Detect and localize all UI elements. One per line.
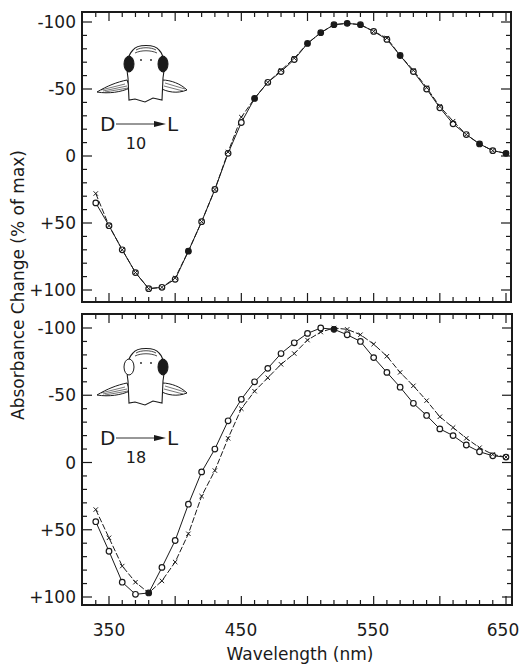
y-tick-label: -50 <box>48 385 76 405</box>
y-tick-label: +100 <box>29 280 76 300</box>
data-point-cross <box>186 532 190 536</box>
x-axis-title: Wavelength (nm) <box>227 644 374 664</box>
fish-body <box>127 349 164 406</box>
data-point-cross <box>252 389 256 393</box>
data-point-circle <box>186 501 192 507</box>
nostril <box>150 362 152 364</box>
data-point-cross <box>371 342 375 346</box>
x-tick-label: 350 <box>93 620 125 640</box>
data-point-cross <box>292 351 296 355</box>
data-point-circle <box>450 433 456 439</box>
data-point-circle <box>239 396 245 402</box>
data-point-circle <box>225 418 231 424</box>
data-point-circle <box>371 355 377 361</box>
y-tick-label: +100 <box>29 587 76 607</box>
data-point-circle <box>212 446 218 452</box>
annotation-from: D <box>100 426 115 450</box>
data-point-circle <box>450 121 456 127</box>
data-point-circle <box>159 565 165 571</box>
data-point-circle <box>397 384 403 390</box>
figure: -100-500+50+100DL10 -100-500+50+100DL18 … <box>0 0 527 669</box>
y-tick-label: 0 <box>65 146 76 166</box>
data-point-cross <box>438 415 442 419</box>
data-point-circle <box>106 548 112 554</box>
data-point-cross <box>94 191 98 195</box>
data-point-circle <box>93 200 99 206</box>
data-point-cross <box>411 384 415 388</box>
y-tick-label: 0 <box>65 453 76 473</box>
data-point-circle <box>411 401 417 407</box>
data-point-cross <box>199 494 203 498</box>
y-axis-title: Absorbance Change (% of max) <box>8 150 28 420</box>
annotation-to: L <box>167 426 179 450</box>
nostril <box>140 362 142 364</box>
data-point-cross <box>279 362 283 366</box>
data-point-cross <box>173 560 177 564</box>
data-point-circle <box>252 379 258 385</box>
annotation-value: 10 <box>126 134 146 153</box>
data-point-circle <box>172 538 178 544</box>
x-tick-label: 450 <box>225 620 257 640</box>
x-tick-label: 650 <box>487 620 519 640</box>
data-point-cross <box>451 425 455 429</box>
data-point-circle <box>291 340 297 346</box>
data-point-cross <box>398 370 402 374</box>
y-tick-label: -50 <box>48 79 76 99</box>
arrow-head-icon <box>154 435 166 441</box>
right-eye <box>158 359 168 375</box>
data-point-cross <box>133 580 137 584</box>
data-point-cross <box>213 468 217 472</box>
fish-body <box>127 46 164 103</box>
data-point-circle <box>344 332 350 338</box>
data-point-cross <box>424 398 428 402</box>
data-point-cross <box>385 354 389 358</box>
data-point-circle <box>305 331 311 337</box>
annotation-value: 18 <box>126 448 146 467</box>
data-point-cross <box>160 579 164 583</box>
data-point-circle <box>199 469 205 475</box>
nostril <box>140 59 142 61</box>
data-point-circle <box>93 519 99 525</box>
panel-bottom: -100-500+50+100DL18 <box>29 314 512 607</box>
left-eye <box>124 56 134 72</box>
data-point-cross <box>305 338 309 342</box>
panel-top: -100-500+50+100DL10 <box>29 12 511 302</box>
data-point-circle <box>358 339 364 345</box>
data-point-circle <box>278 351 284 357</box>
data-point-cross <box>94 507 98 511</box>
right-eye <box>158 56 168 72</box>
y-tick-label: -100 <box>37 318 76 338</box>
y-tick-label: +50 <box>40 520 76 540</box>
data-point-circle <box>133 592 139 598</box>
fish-icon <box>97 349 187 406</box>
data-point-cross <box>358 333 362 337</box>
data-point-circle <box>119 579 125 585</box>
data-point-circle <box>464 442 470 448</box>
data-point-circle <box>437 426 443 432</box>
y-tick-label: -100 <box>37 12 76 32</box>
data-point-cross <box>120 564 124 568</box>
data-point-circle <box>424 413 430 419</box>
data-point-cross <box>464 436 468 440</box>
data-point-cross <box>239 115 243 119</box>
x-tick-labels: 350 450 550 650 <box>93 620 519 640</box>
annotation-from: D <box>100 112 115 136</box>
data-point-circle <box>265 366 271 372</box>
data-point-circle <box>384 370 390 376</box>
data-point-cross <box>266 376 270 380</box>
data-point-circle <box>239 120 245 126</box>
data-point-cross <box>239 407 243 411</box>
x-tick-label: 550 <box>357 620 389 640</box>
fish-icon <box>97 46 187 103</box>
nostril <box>150 59 152 61</box>
y-tick-label: +50 <box>40 213 76 233</box>
annotation-to: L <box>167 112 179 136</box>
arrow-head-icon <box>154 121 166 127</box>
data-point-cross <box>107 536 111 540</box>
left-eye <box>124 359 134 375</box>
data-point-cross <box>226 436 230 440</box>
